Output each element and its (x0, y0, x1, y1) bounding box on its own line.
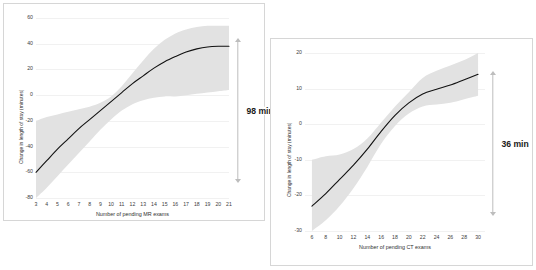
x-tick-label: 20 (215, 202, 221, 207)
x-axis-title-ct: Number of pending CT exams (359, 245, 431, 250)
chart-panel-mr: Change in length of stay (minutes) 60402… (3, 3, 265, 221)
x-tick-label: 3 (35, 202, 38, 207)
y-tick-label: -20 (26, 118, 34, 123)
arrow-head-down-icon (235, 179, 241, 183)
y-tick-label: 20 (27, 67, 33, 72)
x-tick-label: 30 (475, 235, 481, 240)
x-tick-label: 18 (392, 235, 398, 240)
y-tick-label: -30 (295, 228, 303, 233)
trend-curve-mr (36, 18, 229, 198)
y-tick-label: -60 (26, 170, 34, 175)
x-tick-label: 5 (56, 202, 59, 207)
x-tick-label: 18 (194, 202, 200, 207)
x-tick-label: 4 (45, 202, 48, 207)
y-axis-title-mr: Change in length of stay (minutes) (20, 90, 25, 165)
range-arrow-ct: 36 min (476, 71, 510, 216)
x-tick-label: 14 (364, 235, 370, 240)
y-tick-label: 40 (27, 41, 33, 46)
gridline (36, 198, 229, 199)
y-tick-label: -80 (26, 195, 34, 200)
x-tick-label: 21 (226, 202, 232, 207)
x-tick-label: 11 (119, 202, 124, 207)
arrow-shaft (237, 40, 238, 181)
y-tick-label: -10 (295, 157, 303, 162)
y-tick-label: -20 (295, 193, 303, 198)
x-tick-label: 15 (162, 202, 168, 207)
annotation-label-ct: 36 min (500, 139, 529, 148)
x-tick-label: 12 (351, 235, 357, 240)
plot-area-mr: 6040200-20-40-60-80 34567891011121314151… (36, 18, 229, 198)
y-tick-label: -40 (26, 144, 34, 149)
arrow-head-down-icon (490, 212, 496, 216)
y-tick-label: 60 (27, 15, 33, 20)
x-tick-label: 13 (140, 202, 146, 207)
x-tick-label: 9 (99, 202, 102, 207)
x-tick-label: 14 (151, 202, 157, 207)
x-tick-label: 28 (461, 235, 467, 240)
x-tick-label: 12 (130, 202, 136, 207)
gridline (305, 231, 485, 232)
x-tick-label: 6 (67, 202, 70, 207)
x-tick-label: 22 (420, 235, 426, 240)
x-tick-label: 19 (205, 202, 211, 207)
y-tick-label: 20 (296, 50, 302, 55)
x-tick-label: 26 (447, 235, 453, 240)
y-tick-label: 10 (296, 86, 302, 91)
x-tick-label: 7 (77, 202, 80, 207)
x-axis-title-mr: Number of pending MR exams (96, 212, 169, 217)
y-tick-label: 0 (299, 122, 302, 127)
range-arrow-mr: 98 min (221, 38, 255, 183)
x-tick-label: 6 (310, 235, 313, 240)
x-tick-label: 10 (337, 235, 343, 240)
x-tick-label: 8 (88, 202, 91, 207)
x-tick-label: 16 (172, 202, 178, 207)
trend-curve-ct (305, 53, 485, 231)
plot-area-ct: 20100-10-20-30 681012141618202224262830 … (305, 53, 485, 231)
x-tick-label: 8 (324, 235, 327, 240)
x-tick-label: 16 (378, 235, 384, 240)
y-tick-label: 0 (30, 93, 33, 98)
arrow-shaft (492, 73, 493, 214)
x-tick-label: 24 (434, 235, 440, 240)
x-tick-label: 20 (406, 235, 412, 240)
x-tick-label: 10 (108, 202, 114, 207)
x-tick-label: 17 (183, 202, 189, 207)
chart-panel-ct: Change in length of stay (minutes) 20100… (270, 38, 533, 266)
y-axis-title-ct: Change in length of stay (minutes) (288, 123, 293, 198)
